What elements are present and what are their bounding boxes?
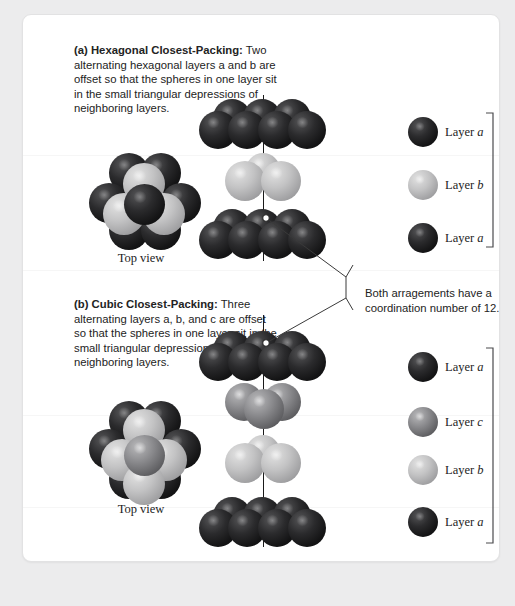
legend-sphere-b-3 (408, 507, 438, 537)
annotation-note: Both arragements have a coordination num… (365, 286, 500, 315)
panel-b-top-view-label: Top view (81, 502, 201, 517)
sphere-light (261, 443, 301, 483)
sphere-mid-center (124, 435, 165, 476)
panel-a-label: (a) (74, 44, 88, 56)
panel-a-stack-model (203, 97, 333, 261)
panel-b-stack-model (203, 331, 333, 547)
annotation-bracket (346, 265, 353, 310)
figure-card: (a) Hexagonal Closest-Packing: Two alter… (22, 14, 500, 562)
legend-label-b-1: Layer c (445, 415, 483, 430)
legend-sphere-a-1 (408, 170, 438, 200)
legend-sphere-a-2 (408, 223, 438, 253)
panel-a-title: Hexagonal Closest-Packing: (91, 44, 243, 56)
legend-sphere-b-2 (408, 455, 438, 485)
panel-b-top-view-model (75, 401, 207, 501)
annotation-note-line-2: coordination number of 12. (365, 301, 500, 316)
panel-a-top-view-label: Top view (81, 251, 201, 266)
sphere-mid (244, 389, 284, 429)
legend-label-b-3: Layer a (445, 515, 484, 530)
legend-label-b-0: Layer a (445, 360, 484, 375)
sphere-dark (288, 221, 326, 259)
sphere-dark (288, 343, 326, 381)
legend-bracket-a (486, 113, 493, 247)
legend-label-a-0: Layer a (445, 125, 484, 140)
panel-b-title: Cubic Closest-Packing: (92, 298, 218, 310)
sphere-light (225, 161, 265, 201)
sphere-dark-center (124, 184, 165, 225)
legend-label-a-1: Layer b (445, 178, 484, 193)
sphere-dark (288, 111, 326, 149)
legend-label-a-2: Layer a (445, 231, 484, 246)
legend-bracket-b (486, 348, 493, 543)
legend-sphere-b-1 (408, 407, 438, 437)
sphere-light (225, 443, 265, 483)
panel-b-label: (b) (74, 298, 88, 310)
legend-sphere-a-0 (408, 117, 438, 147)
sphere-light (261, 161, 301, 201)
annotation-note-line-1: Both arragements have a (365, 286, 500, 301)
legend-label-b-2: Layer b (445, 463, 484, 478)
panel-a-top-view-model (75, 153, 207, 251)
sphere-dark (288, 509, 326, 547)
legend-sphere-b-0 (408, 352, 438, 382)
